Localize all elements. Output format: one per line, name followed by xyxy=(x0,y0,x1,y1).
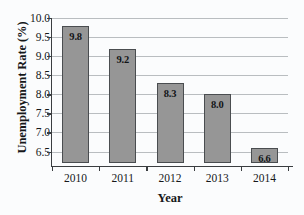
y-axis-tick-mark xyxy=(47,56,52,57)
bar-2011[interactable]: 9.2 xyxy=(109,49,136,163)
bar-value-label: 9.8 xyxy=(63,31,88,42)
bar-2014[interactable]: 6.6 xyxy=(251,148,278,163)
x-axis-tick-label: 2014 xyxy=(240,172,288,184)
y-axis-tick-mark xyxy=(47,18,52,19)
x-axis-tick-label: 2010 xyxy=(52,172,100,184)
x-axis-tick-label: 2011 xyxy=(99,172,147,184)
y-axis-tick-label: 9.0 xyxy=(22,50,50,62)
y-axis-tick-label: 7.0 xyxy=(22,126,50,138)
x-axis-tick-mark xyxy=(52,167,53,171)
y-axis-tick-mark xyxy=(47,113,52,114)
x-axis-tick-mark xyxy=(194,167,195,171)
y-axis-tick-label: 6.5 xyxy=(22,146,50,158)
y-axis-tick-mark xyxy=(47,75,52,76)
y-axis-tick-mark xyxy=(47,152,52,153)
bar-value-label: 6.6 xyxy=(252,153,277,164)
x-axis-tick-mark xyxy=(146,167,147,171)
x-axis-tick-mark xyxy=(241,167,242,171)
y-axis-tick-mark xyxy=(47,37,52,38)
x-axis-line xyxy=(51,166,293,167)
y-axis-tick-mark xyxy=(47,132,52,133)
gridline xyxy=(52,18,288,19)
bar-2013[interactable]: 8.0 xyxy=(204,94,231,163)
bar-value-label: 9.2 xyxy=(110,54,135,65)
x-axis-tick-mark xyxy=(99,167,100,171)
bar-2012[interactable]: 8.3 xyxy=(157,83,184,163)
y-axis-tick-labels: 10.09.59.08.58.07.57.06.5 xyxy=(22,18,50,163)
bar-chart-figure: Unemployment Rate (%) 10.09.59.08.58.07.… xyxy=(0,0,304,215)
y-axis-tick-label: 10.0 xyxy=(22,12,50,24)
plot-area: 9.89.28.38.06.6 xyxy=(52,18,288,163)
x-axis-tick-label: 2013 xyxy=(193,172,241,184)
x-axis-tick-label: 2012 xyxy=(146,172,194,184)
bar-value-label: 8.3 xyxy=(158,88,183,99)
x-axis-title: Year xyxy=(52,191,288,206)
bar-2010[interactable]: 9.8 xyxy=(62,26,89,163)
bar-value-label: 8.0 xyxy=(205,99,230,110)
y-axis-tick-label: 7.5 xyxy=(22,107,50,119)
y-axis-line xyxy=(51,18,52,167)
y-axis-tick-mark xyxy=(47,94,52,95)
y-axis-tick-label: 9.5 xyxy=(22,31,50,43)
x-axis-tick-mark xyxy=(288,167,289,171)
y-axis-tick-label: 8.5 xyxy=(22,69,50,81)
y-axis-tick-label: 8.0 xyxy=(22,88,50,100)
